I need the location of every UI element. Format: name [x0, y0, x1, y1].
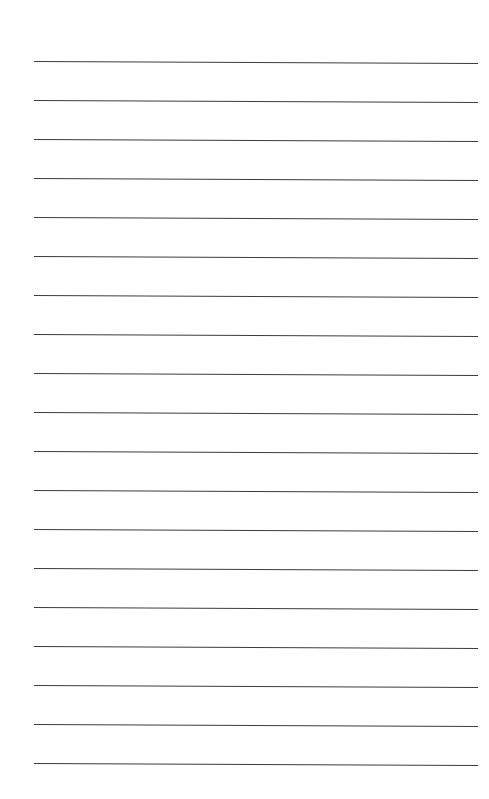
ruled-line — [34, 295, 478, 298]
ruled-line — [34, 373, 478, 376]
lined-paper-page — [0, 0, 489, 799]
ruled-line — [34, 568, 478, 571]
ruled-line — [34, 139, 478, 142]
ruled-line — [34, 724, 478, 727]
ruled-line — [34, 763, 478, 766]
ruled-line — [34, 334, 478, 337]
ruled-line — [34, 685, 478, 688]
ruled-line — [34, 178, 478, 181]
ruled-line — [34, 256, 478, 259]
ruled-line — [34, 100, 478, 103]
ruled-line — [34, 451, 478, 454]
ruled-line — [34, 646, 478, 649]
ruled-line — [34, 61, 478, 64]
ruled-line — [34, 490, 478, 493]
ruled-line — [34, 217, 478, 220]
ruled-line — [34, 412, 478, 415]
ruled-line — [34, 607, 478, 610]
ruled-line — [34, 529, 478, 532]
